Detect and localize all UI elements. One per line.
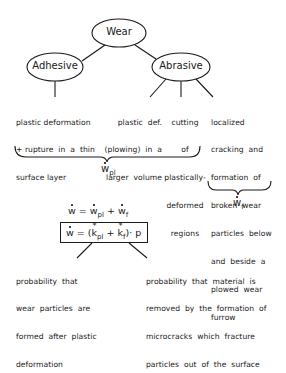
annotation-k-f: probability that material is removed by … (146, 258, 267, 373)
plastic-wear-rate-label: wpl (101, 163, 116, 177)
mechanism-adhesive-plastic-deformation: plastic deformation + rupture in a thin … (16, 99, 95, 192)
fracture-wear-rate-label: wf (233, 197, 244, 211)
boxed-wear-rate-equation: w = (k*pl + k*f)· p (66, 227, 141, 241)
abrasive-node: Abrasive (152, 60, 210, 71)
mechanism-abrasive-cutting: cutting of plastically- deformed regions (163, 99, 207, 248)
mechanism-abrasive-plowing: plastic def. (plowing) in a larger volum… (98, 99, 162, 192)
wear-node: Wear (92, 26, 146, 37)
annotation-k-pl: probability that wear particles are form… (16, 258, 97, 373)
wear-rate-sum-equation: w = wpl + wf (68, 205, 128, 219)
adhesive-node: Adhesive (27, 60, 83, 71)
